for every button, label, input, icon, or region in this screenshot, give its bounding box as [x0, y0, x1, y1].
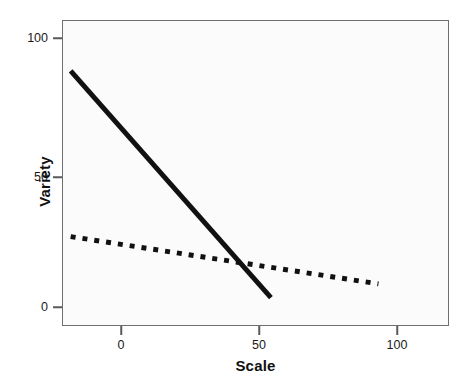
- x-axis-title: Scale: [62, 357, 449, 374]
- xtick-label-50: 50: [252, 339, 266, 352]
- ytick-label-100: 100: [8, 32, 48, 45]
- xtick-mark-100: [396, 326, 398, 335]
- y-axis-title: Variety: [36, 122, 53, 242]
- ytick-label-0: 0: [8, 301, 48, 314]
- ytick-mark-50: [53, 176, 62, 178]
- ytick-mark-100: [53, 37, 62, 39]
- ytick-mark-0: [53, 306, 62, 308]
- plot-panel: [62, 20, 449, 326]
- xtick-label-100: 100: [387, 339, 408, 352]
- xtick-mark-0: [120, 326, 122, 335]
- chart-figure: 100 50 0 0 50 100 Variety Scale: [0, 0, 467, 385]
- xtick-label-0: 0: [118, 339, 125, 352]
- series-steep-solid-line: [71, 71, 271, 298]
- xtick-mark-50: [258, 326, 260, 335]
- plot-svg: [63, 21, 448, 325]
